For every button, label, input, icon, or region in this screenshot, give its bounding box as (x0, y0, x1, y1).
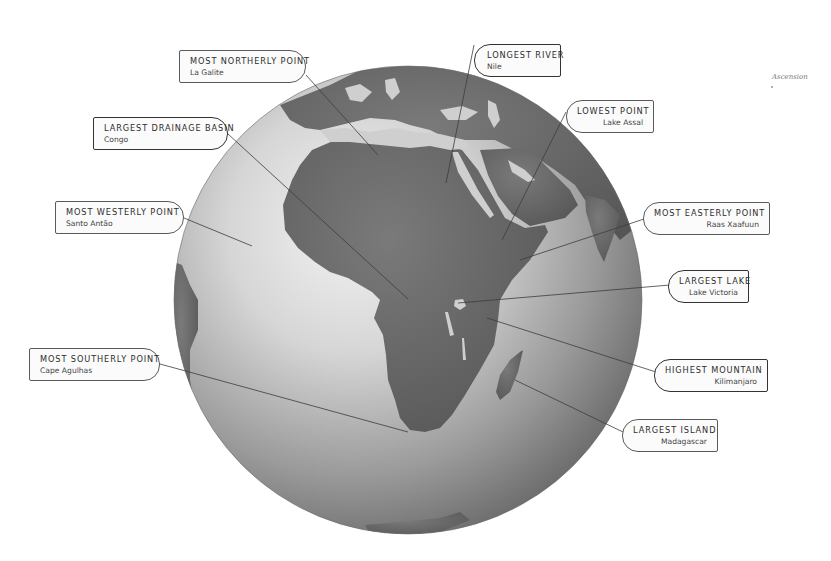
callout-most-southerly-point: MOST SOUTHERLY POINT Cape Agulhas (29, 348, 160, 381)
callout-title: LONGEST RIVER (487, 49, 550, 61)
callout-value: Santo Antão (66, 218, 173, 229)
callout-most-easterly-point: MOST EASTERLY POINT Raas Xaafuun (643, 202, 770, 235)
callout-largest-drainage-basin: LARGEST DRAINAGE BASIN Congo (93, 117, 228, 150)
infographic: MOST NORTHERLY POINT La Galite LONGEST R… (0, 0, 831, 561)
callout-value: Madagascar (633, 436, 707, 447)
ascension-label: Ascension (772, 73, 808, 81)
callout-title: MOST NORTHERLY POINT (190, 55, 295, 67)
callout-longest-river: LONGEST RIVER Nile (474, 44, 561, 77)
callout-value: La Galite (190, 67, 295, 78)
callout-value: Lake Victoria (679, 287, 738, 298)
callout-value: Lake Assal (577, 117, 643, 128)
callout-title: LOWEST POINT (577, 105, 643, 117)
callout-largest-island: LARGEST ISLAND Madagascar (622, 419, 718, 452)
callout-most-northerly-point: MOST NORTHERLY POINT La Galite (179, 50, 306, 83)
callout-highest-mountain: HIGHEST MOUNTAIN Kilimanjaro (654, 359, 768, 392)
ascension-marker (771, 86, 773, 88)
callout-title: LARGEST LAKE (679, 275, 738, 287)
callout-title: MOST SOUTHERLY POINT (40, 353, 149, 365)
callout-title: HIGHEST MOUNTAIN (665, 364, 757, 376)
callout-value: Kilimanjaro (665, 376, 757, 387)
callout-title: MOST WESTERLY POINT (66, 206, 173, 218)
callout-largest-lake: LARGEST LAKE Lake Victoria (668, 270, 749, 303)
callout-title: LARGEST DRAINAGE BASIN (104, 122, 217, 134)
callout-value: Congo (104, 134, 217, 145)
callout-value: Nile (487, 61, 550, 72)
callout-title: LARGEST ISLAND (633, 424, 707, 436)
callout-lowest-point: LOWEST POINT Lake Assal (566, 100, 654, 133)
callout-value: Raas Xaafuun (654, 219, 759, 230)
callout-value: Cape Agulhas (40, 365, 149, 376)
callout-most-westerly-point: MOST WESTERLY POINT Santo Antão (55, 201, 184, 234)
callout-title: MOST EASTERLY POINT (654, 207, 759, 219)
